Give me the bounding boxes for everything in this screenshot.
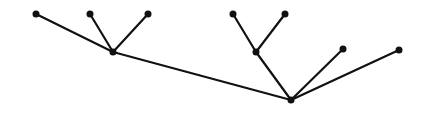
tree-node-n21: [230, 11, 237, 18]
tree-node-n2: [253, 49, 260, 56]
tree-node-n3: [110, 49, 117, 56]
tree-edge: [256, 14, 285, 52]
tree-node-n1: [340, 46, 347, 53]
tree-edge: [233, 14, 256, 52]
tree-edge: [113, 14, 148, 52]
proof-tree-diagram: [0, 0, 436, 122]
tree-node-n3s: [145, 11, 152, 18]
edge-layer: [0, 0, 436, 122]
tree-node-root: [288, 97, 295, 104]
tree-node-n32: [33, 11, 40, 18]
tree-edge: [291, 49, 343, 100]
tree-node-nstar: [396, 47, 403, 54]
tree-node-n2s: [282, 11, 289, 18]
tree-node-n31: [87, 11, 94, 18]
tree-edge: [113, 52, 291, 100]
tree-edge: [291, 50, 399, 100]
